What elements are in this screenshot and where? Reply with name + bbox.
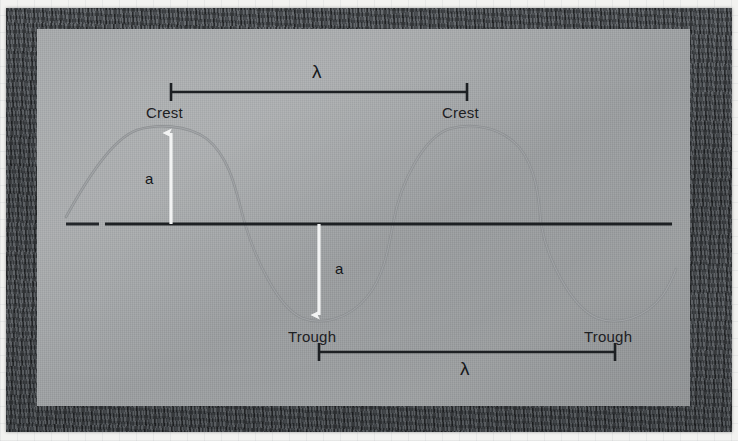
wavelength-top-dimension [171,83,467,101]
lambda-label-bottom: λ [460,359,470,378]
lambda-label-top: λ [312,62,322,81]
amplitude-up-label: a [145,171,154,186]
diagram-board: Crest Crest Trough Trough λ λ a a [37,29,690,406]
trough-label-left: Trough [288,329,336,344]
crest-label-left: Crest [146,105,183,120]
trough-label-right: Trough [584,329,632,344]
crest-label-right: Crest [442,105,479,120]
wave-diagram-image: Crest Crest Trough Trough λ λ a a [0,0,738,441]
wave-vector-layer [37,29,690,406]
amplitude-down-label: a [335,261,344,276]
